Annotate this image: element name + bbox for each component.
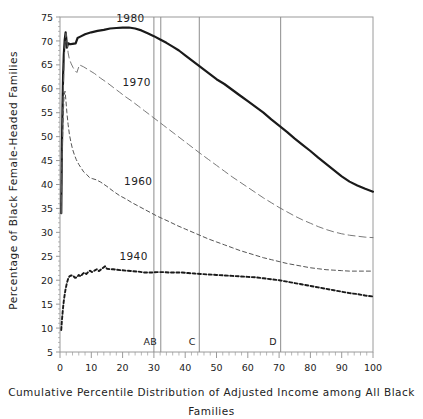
y-tick-label: 55	[41, 107, 53, 118]
reference-line-label-b: B	[150, 336, 157, 347]
y-tick-label: 10	[41, 323, 53, 334]
y-tick-label: 15	[41, 299, 53, 310]
series-annotation-1970: 1970	[123, 76, 151, 88]
reference-line-label-d: D	[269, 336, 276, 347]
x-tick-label: 0	[57, 362, 63, 373]
x-tick-label: 40	[179, 362, 191, 373]
y-axis-label-text: Percentage of Black Female-Headed Famili…	[7, 51, 19, 310]
x-tick-label: 30	[148, 362, 160, 373]
y-tick-label: 40	[41, 179, 53, 190]
x-tick-label: 70	[273, 362, 285, 373]
y-axis-label: Percentage of Black Female-Headed Famili…	[0, 0, 26, 360]
x-tick-label: 80	[304, 362, 316, 373]
series-line-1960	[61, 91, 373, 271]
x-axis-label: Cumulative Percentile Distribution of Ad…	[0, 381, 423, 419]
y-tick-label: 20	[41, 275, 53, 286]
y-tick-label: 60	[41, 83, 53, 94]
series-annotation-1980: 1980	[116, 12, 144, 24]
reference-line-label-c: C	[189, 336, 196, 347]
series-annotation-1940: 1940	[119, 250, 147, 262]
plot-frame	[60, 17, 373, 352]
y-tick-label: 70	[41, 36, 53, 47]
x-tick-label: 20	[117, 362, 129, 373]
x-axis-label-text: Cumulative Percentile Distribution of Ad…	[8, 386, 415, 417]
series-line-1940	[61, 266, 373, 330]
y-tick-label: 50	[41, 131, 53, 142]
axes-layer: 5101520253035404550556065707501020304050…	[41, 12, 382, 373]
x-tick-label: 60	[242, 362, 254, 373]
y-tick-label: 65	[41, 59, 53, 70]
x-tick-label: 10	[85, 362, 97, 373]
data-series-layer	[61, 28, 373, 330]
y-tick-label: 30	[41, 227, 53, 238]
x-tick-label: 100	[364, 362, 382, 373]
y-tick-label: 25	[41, 251, 53, 262]
y-tick-label: 5	[47, 347, 53, 358]
series-annotation-1960: 1960	[124, 175, 152, 187]
y-tick-label: 35	[41, 203, 53, 214]
series-line-1980	[61, 28, 373, 214]
x-tick-label: 50	[210, 362, 222, 373]
x-tick-label: 90	[336, 362, 348, 373]
series-line-1970	[61, 33, 373, 237]
series-annotations-layer: 1980197019601940	[116, 12, 152, 262]
reference-lines-layer: ABCD	[143, 17, 280, 352]
y-tick-label: 75	[41, 12, 53, 23]
y-tick-label: 45	[41, 155, 53, 166]
